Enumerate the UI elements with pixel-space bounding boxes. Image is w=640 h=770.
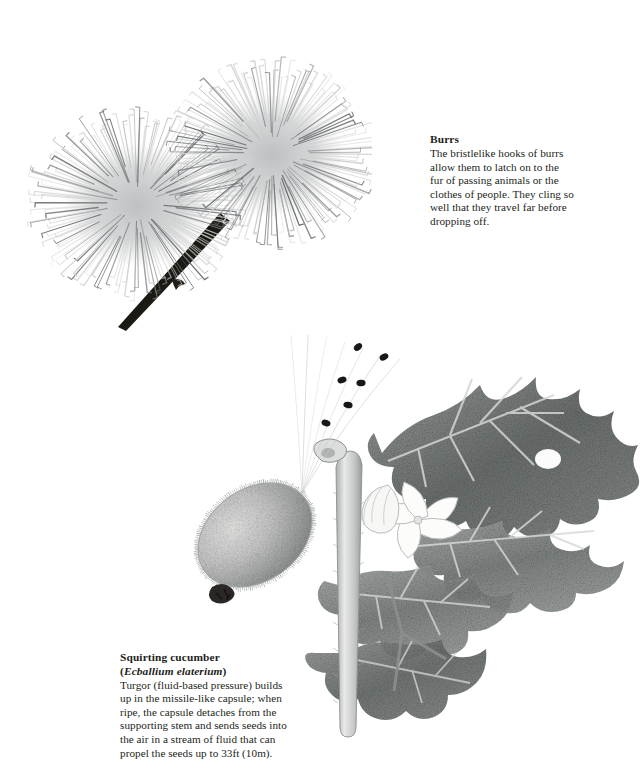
burr-stem: [118, 213, 230, 331]
leaf-mid-right: [400, 521, 624, 613]
leaf-upper-right: [368, 377, 639, 539]
leaf-hole: [535, 449, 561, 469]
cucumber-common-name: Squirting cucumber: [120, 651, 220, 663]
ejected-seeds: [321, 342, 390, 428]
cucumber-caption-title: Squirting cucumber(Ecballium elaterium): [120, 651, 320, 678]
burrs-caption-title: Burrs: [430, 133, 626, 147]
vine-stems: [386, 571, 446, 691]
leaf-veins-lower-left: [344, 567, 490, 635]
burr-head-left: [28, 107, 246, 301]
flower-center: [414, 516, 422, 524]
burr-head-right-core: [202, 95, 342, 215]
cucumber-caption-body: Turgor (fluid-based pressure) builds up …: [120, 679, 320, 761]
burr-head-right: [166, 57, 372, 249]
squirting-cucumber-caption: Squirting cucumber(Ecballium elaterium) …: [120, 651, 320, 760]
burrs-caption: Burrs The bristlelike hooks of burrs all…: [430, 133, 626, 229]
burrs-illustration: [22, 45, 372, 345]
cucumber-foliage: [305, 377, 639, 720]
fruit-capsule: [171, 455, 338, 615]
leaf-veins-upper-right: [388, 377, 580, 487]
leaf-veins-mid-right: [406, 507, 594, 577]
seed-spray-lines: [290, 335, 400, 493]
leaf-bottom: [305, 639, 486, 720]
stalk-opening: [321, 448, 335, 458]
cucumber-species-name: Ecballium elaterium: [124, 665, 223, 677]
stalk-bristles: [333, 492, 364, 703]
burr-head-left-core: [65, 145, 209, 265]
page-canvas: Burrs The bristlelike hooks of burrs all…: [0, 0, 640, 770]
flower-petals: [376, 482, 462, 558]
cucumber-paren-close: ): [223, 665, 227, 677]
cucumber-flower: [362, 482, 462, 558]
capsule-detach-scar: [209, 584, 235, 604]
supporting-stem: [314, 439, 364, 737]
flower-bud: [362, 485, 399, 533]
leaf-veins-bottom: [352, 641, 470, 703]
burrs-caption-body: The bristlelike hooks of burrs allow the…: [430, 147, 626, 229]
leaf-lower-left: [318, 565, 514, 659]
